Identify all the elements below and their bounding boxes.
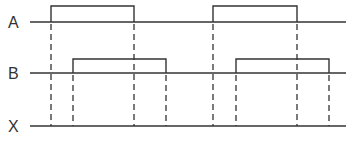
timing-diagram: A B X: [0, 0, 356, 144]
pulse-b-2: [236, 59, 329, 73]
signal-traces: [30, 6, 346, 126]
signal-labels: A B X: [8, 14, 19, 135]
signal-label-b: B: [8, 65, 19, 82]
pulse-a-1: [51, 6, 134, 22]
pulse-b-1: [73, 59, 166, 73]
pulse-a-2: [213, 6, 297, 22]
signal-label-a: A: [8, 14, 19, 31]
edge-marker-lines: [51, 24, 329, 126]
signal-label-x: X: [8, 118, 19, 135]
